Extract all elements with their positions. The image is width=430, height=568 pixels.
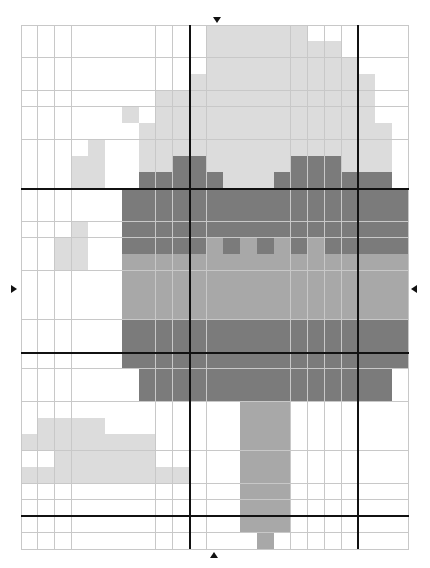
grid-cell[interactable] (55, 41, 72, 58)
grid-cell[interactable] (257, 58, 274, 75)
grid-cell[interactable] (358, 418, 375, 435)
grid-cell[interactable] (55, 156, 72, 173)
grid-cell[interactable] (72, 434, 89, 451)
grid-cell[interactable] (358, 238, 375, 255)
grid-cell[interactable] (38, 271, 55, 288)
grid-cell[interactable] (55, 189, 72, 206)
grid-cell[interactable] (139, 533, 156, 550)
grid-cell[interactable] (274, 451, 291, 468)
grid-cell[interactable] (207, 402, 224, 419)
grid-cell[interactable] (240, 205, 257, 222)
grid-cell[interactable] (392, 254, 409, 271)
grid-cell[interactable] (38, 467, 55, 484)
grid-cell[interactable] (308, 303, 325, 320)
grid-cell[interactable] (139, 434, 156, 451)
grid-cell[interactable] (207, 172, 224, 189)
grid-cell[interactable] (105, 516, 122, 533)
grid-cell[interactable] (122, 238, 139, 255)
grid-cell[interactable] (55, 25, 72, 42)
grid-cell[interactable] (207, 123, 224, 140)
grid-cell[interactable] (173, 58, 190, 75)
grid-cell[interactable] (375, 25, 392, 42)
grid-cell[interactable] (156, 484, 173, 501)
grid-cell[interactable] (55, 172, 72, 189)
grid-cell[interactable] (240, 467, 257, 484)
grid-cell[interactable] (358, 205, 375, 222)
grid-cell[interactable] (257, 156, 274, 173)
grid-cell[interactable] (139, 25, 156, 42)
grid-cell[interactable] (190, 140, 207, 157)
grid-cell[interactable] (325, 58, 342, 75)
grid-cell[interactable] (122, 484, 139, 501)
grid-cell[interactable] (207, 205, 224, 222)
grid-cell[interactable] (173, 107, 190, 124)
grid-cell[interactable] (240, 353, 257, 370)
grid-cell[interactable] (21, 336, 38, 353)
grid-cell[interactable] (72, 156, 89, 173)
grid-cell[interactable] (358, 402, 375, 419)
grid-cell[interactable] (325, 271, 342, 288)
grid-cell[interactable] (308, 369, 325, 386)
grid-cell[interactable] (223, 205, 240, 222)
grid-cell[interactable] (257, 271, 274, 288)
grid-cell[interactable] (139, 287, 156, 304)
grid-cell[interactable] (291, 123, 308, 140)
grid-cell[interactable] (139, 205, 156, 222)
grid-cell[interactable] (308, 484, 325, 501)
grid-cell[interactable] (392, 107, 409, 124)
grid-cell[interactable] (257, 516, 274, 533)
grid-cell[interactable] (173, 25, 190, 42)
grid-cell[interactable] (342, 484, 359, 501)
grid-cell[interactable] (207, 271, 224, 288)
grid-cell[interactable] (122, 418, 139, 435)
grid-cell[interactable] (291, 418, 308, 435)
grid-cell[interactable] (207, 25, 224, 42)
grid-cell[interactable] (207, 516, 224, 533)
grid-cell[interactable] (21, 172, 38, 189)
grid-cell[interactable] (223, 91, 240, 108)
grid-cell[interactable] (55, 238, 72, 255)
grid-cell[interactable] (274, 402, 291, 419)
grid-cell[interactable] (257, 353, 274, 370)
grid-cell[interactable] (190, 353, 207, 370)
grid-cell[interactable] (308, 107, 325, 124)
grid-cell[interactable] (156, 369, 173, 386)
grid-cell[interactable] (156, 451, 173, 468)
grid-cell[interactable] (88, 25, 105, 42)
grid-cell[interactable] (207, 484, 224, 501)
grid-cell[interactable] (240, 156, 257, 173)
grid-cell[interactable] (38, 320, 55, 337)
grid-cell[interactable] (122, 74, 139, 91)
grid-cell[interactable] (122, 107, 139, 124)
grid-cell[interactable] (223, 123, 240, 140)
grid-cell[interactable] (325, 107, 342, 124)
grid-cell[interactable] (392, 467, 409, 484)
grid-cell[interactable] (291, 58, 308, 75)
grid-cell[interactable] (392, 189, 409, 206)
grid-cell[interactable] (342, 353, 359, 370)
grid-cell[interactable] (173, 91, 190, 108)
grid-cell[interactable] (308, 271, 325, 288)
grid-cell[interactable] (358, 320, 375, 337)
grid-cell[interactable] (375, 172, 392, 189)
grid-cell[interactable] (139, 418, 156, 435)
grid-cell[interactable] (375, 271, 392, 288)
grid-cell[interactable] (21, 238, 38, 255)
grid-cell[interactable] (88, 41, 105, 58)
grid-cell[interactable] (291, 156, 308, 173)
grid-cell[interactable] (88, 402, 105, 419)
grid-cell[interactable] (72, 271, 89, 288)
grid-cell[interactable] (274, 74, 291, 91)
grid-cell[interactable] (38, 222, 55, 239)
grid-cell[interactable] (105, 336, 122, 353)
grid-cell[interactable] (173, 467, 190, 484)
grid-cell[interactable] (38, 336, 55, 353)
grid-cell[interactable] (240, 484, 257, 501)
grid-cell[interactable] (156, 418, 173, 435)
grid-cell[interactable] (190, 287, 207, 304)
grid-cell[interactable] (105, 353, 122, 370)
grid-cell[interactable] (55, 123, 72, 140)
grid-cell[interactable] (207, 353, 224, 370)
grid-cell[interactable] (207, 287, 224, 304)
grid-cell[interactable] (240, 287, 257, 304)
